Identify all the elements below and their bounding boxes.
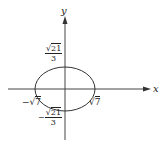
radicand: 7 — [35, 96, 41, 107]
x-axis-label: x — [153, 84, 159, 93]
y-intercept-top-label: √21 3 — [45, 44, 62, 63]
radicand: 21 — [51, 43, 61, 53]
ellipse-diagram — [0, 0, 164, 147]
denominator: 3 — [51, 54, 56, 63]
x-intercept-right-label: √7 — [89, 98, 100, 107]
x-axis-arrow-icon — [143, 87, 151, 92]
radicand: 7 — [95, 96, 101, 107]
x-intercept-left-label: −√7 — [22, 98, 41, 107]
minus-sign: − — [22, 97, 30, 107]
y-axis-arrow-icon — [63, 16, 68, 24]
minus-sign: − — [38, 113, 45, 122]
y-intercept-bottom-label: − √21 3 — [38, 108, 62, 127]
radicand: 21 — [51, 107, 61, 117]
sqrt-symbol: √ — [89, 97, 95, 107]
y-axis-label: y — [61, 6, 67, 15]
denominator: 3 — [51, 118, 56, 127]
